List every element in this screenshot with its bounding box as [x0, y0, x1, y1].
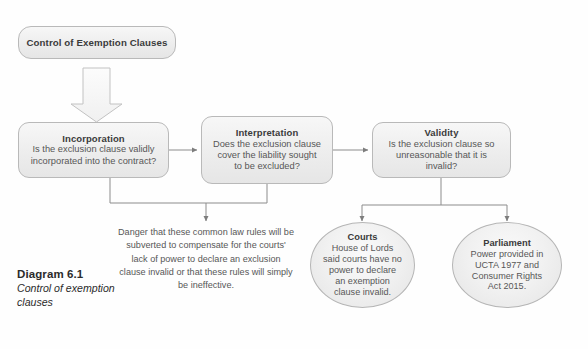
node-title: Interpretation [236, 127, 299, 139]
danger-note-text: Danger that these common law rules will … [118, 226, 294, 292]
figure-caption: Diagram 6.1 Control of exemption clauses [17, 268, 129, 310]
block-arrow-down-icon [71, 68, 122, 122]
node-title: Incorporation [62, 133, 125, 145]
node-title: Parliament [483, 238, 531, 249]
node-question-line: incorporated into the contract? [25, 156, 163, 167]
node-control-of-exemption-clauses: Control of Exemption Clauses [18, 26, 176, 59]
node-incorporation: Incorporation Is the exclusion clause va… [18, 122, 169, 178]
node-question-line: to be excluded? [228, 161, 306, 172]
caption-number: Diagram 6.1 [17, 268, 129, 280]
node-title: Courts [348, 232, 378, 243]
diagram-canvas: Control of Exemption Clauses Incorporati… [0, 0, 588, 349]
node-body: House of Lords said courts have no power… [311, 243, 414, 298]
node-parliament: Parliament Power provided in UCTA 1977 a… [452, 222, 562, 308]
node-question-line: Is the exclusion clause so [383, 139, 501, 150]
node-title: Validity [424, 127, 458, 139]
node-validity: Validity Is the exclusion clause so unre… [372, 122, 511, 178]
node-question-line: unreasonable that it is invalid? [373, 150, 510, 173]
node-question-line: Is the exclusion clause validly [27, 144, 161, 155]
node-title: Control of Exemption Clauses [26, 37, 167, 49]
node-question-line: Does the exclusion clause [207, 139, 327, 150]
node-question-line: cover the liability sought [211, 150, 322, 161]
caption-description: Control of exemption clauses [17, 282, 129, 310]
node-interpretation: Interpretation Does the exclusion clause… [201, 116, 333, 184]
node-courts: Courts House of Lords said courts have n… [310, 222, 415, 308]
node-body: Power provided in UCTA 1977 and Consumer… [453, 249, 561, 293]
